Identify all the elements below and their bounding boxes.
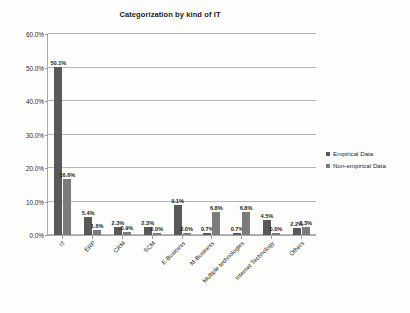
x-axis-labels: ITERPCRMSCME-BusinessM-BusinessMultiple … bbox=[47, 236, 316, 310]
x-axis-tick-mark bbox=[301, 236, 302, 239]
x-axis-tick-mark bbox=[271, 236, 272, 239]
x-axis-tick-label: IT bbox=[58, 240, 66, 248]
x-axis-tick-label: ERP bbox=[83, 240, 96, 253]
x-axis-tick-mark bbox=[122, 236, 123, 239]
bar-value-label: 0.9% bbox=[121, 225, 134, 231]
bar: 0.7% bbox=[233, 233, 241, 235]
bar-value-label: 0.0% bbox=[269, 226, 282, 232]
bar: 16.6% bbox=[63, 179, 71, 235]
bar-group: 9.1%0.0% bbox=[167, 34, 197, 235]
x-axis-tick-mark bbox=[182, 236, 183, 239]
x-axis-tick-mark bbox=[92, 236, 93, 239]
bar-group: 0.7%6.8% bbox=[227, 34, 257, 235]
x-axis-tick-mark bbox=[211, 236, 212, 239]
x-axis-label-cell: Internet Technology bbox=[256, 236, 286, 310]
y-axis-tick-label: 30.0% bbox=[26, 131, 44, 138]
legend-swatch-icon bbox=[326, 152, 330, 156]
bar: 2.2% bbox=[293, 228, 301, 235]
bar-value-label: 9.1% bbox=[171, 198, 184, 204]
chart-title: Categorization by kind of IT bbox=[0, 10, 340, 19]
bar-value-label: 0.0% bbox=[180, 226, 193, 232]
x-axis-label-cell: E-Business bbox=[167, 236, 197, 310]
y-axis-tick-label: 50.0% bbox=[26, 64, 44, 71]
bar: 2.3% bbox=[302, 227, 310, 235]
x-axis-label-cell: Others bbox=[286, 236, 316, 310]
bar: 0.0% bbox=[272, 233, 280, 235]
bar: 1.6% bbox=[93, 230, 101, 235]
chart-legend: Empirical DataNon-empirical Data bbox=[326, 150, 386, 174]
legend-swatch-icon bbox=[326, 164, 330, 168]
x-axis-label-cell: CRM bbox=[107, 236, 137, 310]
bar-value-label: 6.8% bbox=[240, 205, 253, 211]
bar-value-label: 4.5% bbox=[260, 213, 273, 219]
bar-value-label: 5.4% bbox=[82, 210, 95, 216]
legend-label: Non-empirical Data bbox=[333, 162, 386, 169]
x-axis-tick-mark bbox=[62, 236, 63, 239]
bar-value-label: 0.0% bbox=[150, 226, 163, 232]
bar-value-label: 2.3% bbox=[299, 220, 312, 226]
x-axis-tick-mark bbox=[152, 236, 153, 239]
x-axis-tick-mark bbox=[241, 236, 242, 239]
bar-value-label: 50.1% bbox=[50, 60, 66, 66]
y-axis-tick-label: 20.0% bbox=[26, 165, 44, 172]
bar: 0.0% bbox=[183, 233, 191, 235]
bar-group: 4.5%0.0% bbox=[256, 34, 286, 235]
bar-group: 0.7%6.8% bbox=[197, 34, 227, 235]
x-axis-tick-label: Others bbox=[288, 240, 305, 257]
bar-group: 2.3%0.9% bbox=[108, 34, 138, 235]
x-axis-tick-label: SCM bbox=[142, 240, 156, 254]
legend-item[interactable]: Non-empirical Data bbox=[326, 162, 386, 169]
y-axis-tick-label: 10.0% bbox=[26, 198, 44, 205]
bar-value-label: 6.8% bbox=[210, 205, 223, 211]
bar: 0.7% bbox=[203, 233, 211, 235]
bar-group: 2.3%0.0% bbox=[137, 34, 167, 235]
chart-container: Categorization by kind of IT 0.0%10.0%20… bbox=[0, 0, 410, 313]
legend-label: Empirical Data bbox=[333, 150, 373, 157]
x-axis-label-cell: ERP bbox=[77, 236, 107, 310]
legend-item[interactable]: Empirical Data bbox=[326, 150, 386, 157]
bar: 6.8% bbox=[212, 212, 220, 235]
bars-layer: 50.1%16.6%5.4%1.6%2.3%0.9%2.3%0.0%9.1%0.… bbox=[48, 34, 316, 235]
bar-group: 50.1%16.6% bbox=[48, 34, 78, 235]
x-axis-label-cell: SCM bbox=[137, 236, 167, 310]
bar: 6.8% bbox=[242, 212, 250, 235]
bar: 0.0% bbox=[153, 233, 161, 235]
bar: 0.9% bbox=[123, 232, 131, 235]
y-axis-tick-label: 60.0% bbox=[26, 31, 44, 38]
x-axis-label-cell: IT bbox=[47, 236, 77, 310]
y-axis-tick-label: 40.0% bbox=[26, 98, 44, 105]
bar-group: 2.2%2.3% bbox=[286, 34, 316, 235]
x-axis-tick-label: CRM bbox=[112, 240, 126, 254]
bar-value-label: 1.6% bbox=[91, 223, 104, 229]
y-axis-tick-label: 0.0% bbox=[29, 232, 44, 239]
plot-area: 0.0%10.0%20.0%30.0%40.0%50.0%60.0% 50.1%… bbox=[47, 34, 316, 236]
bar: 50.1% bbox=[54, 67, 62, 235]
bar-value-label: 16.6% bbox=[59, 172, 75, 178]
bar-group: 5.4%1.6% bbox=[78, 34, 108, 235]
